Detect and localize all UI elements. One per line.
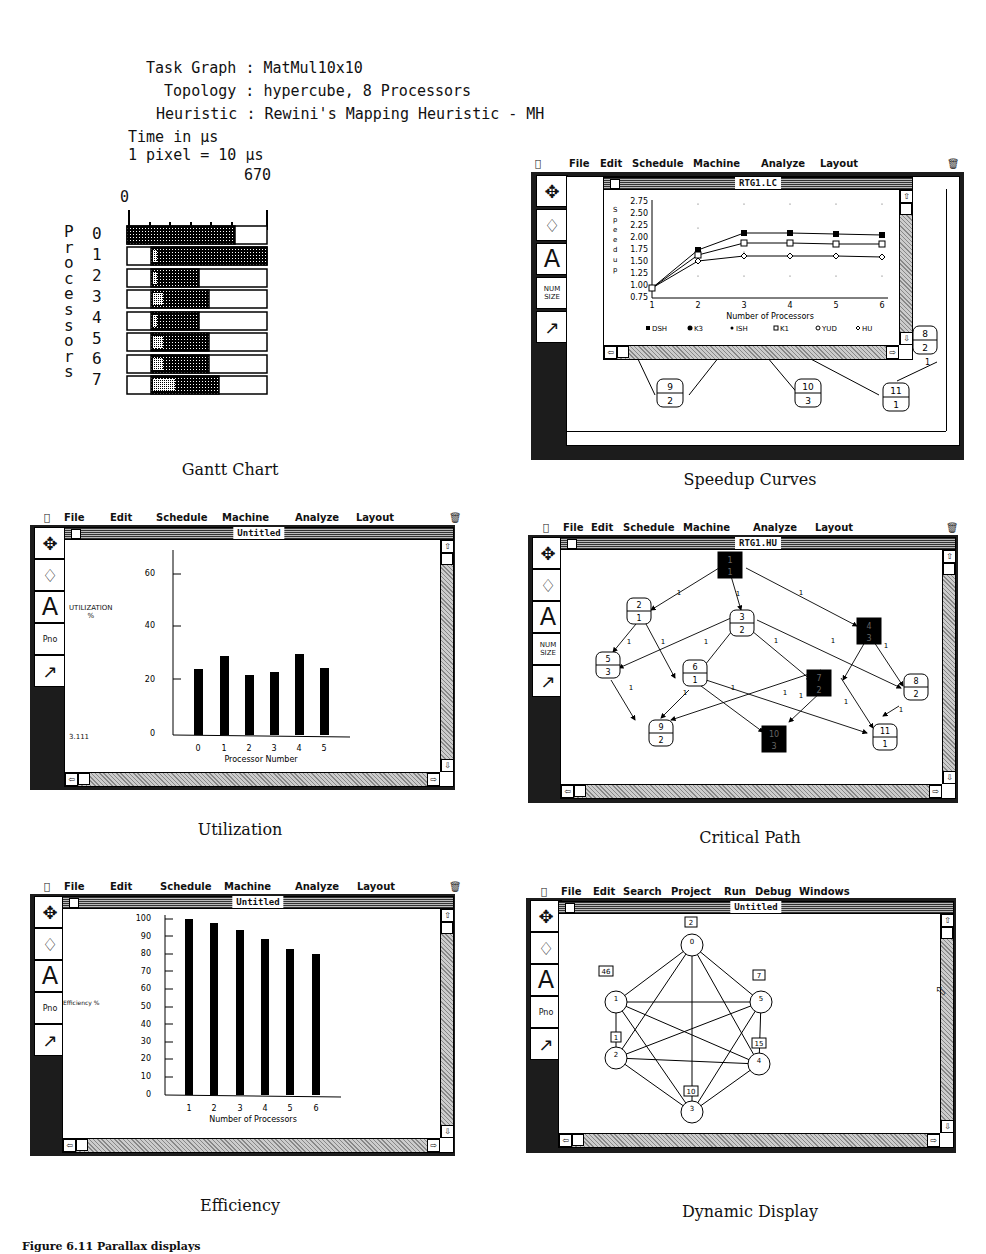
close-box-icon[interactable] [567, 539, 577, 549]
menu-machine[interactable]: Machine [224, 881, 271, 892]
menu-machine[interactable]: Machine [683, 522, 730, 533]
dynamic-titlebar[interactable]: Untitled [559, 902, 953, 914]
menu-analyze[interactable]: Analyze [295, 881, 339, 892]
num-size-tool-icon[interactable]: NUM SIZE [536, 277, 568, 309]
arrow-tool-icon[interactable]: ↗ [34, 655, 66, 687]
vertical-scrollbar[interactable]: ⇧ ⇩ [940, 914, 953, 1133]
hscroll-thumb[interactable] [78, 773, 90, 785]
apple-menu-icon[interactable]:  [535, 158, 541, 169]
menu-edit[interactable]: Edit [600, 158, 622, 169]
utilization-titlebar[interactable]: Untitled [65, 528, 453, 540]
scroll-up-icon[interactable]: ⇧ [941, 914, 954, 927]
scroll-right-icon[interactable]: ⇨ [427, 1139, 440, 1152]
scroll-right-icon[interactable]: ⇨ [427, 773, 440, 786]
menu-layout[interactable]: Layout [357, 881, 395, 892]
scroll-down-icon[interactable]: ⇩ [943, 771, 956, 784]
close-box-icon[interactable] [565, 903, 575, 913]
move-tool-icon[interactable]: ✥ [536, 175, 568, 207]
scroll-up-icon[interactable]: ⇧ [900, 190, 913, 203]
horizontal-scrollbar[interactable]: ⇦ ⇨ [63, 1138, 440, 1152]
apple-menu-icon[interactable]:  [543, 522, 549, 533]
scroll-left-icon[interactable]: ⇦ [604, 346, 617, 359]
menu-analyze[interactable]: Analyze [753, 522, 797, 533]
text-tool-icon[interactable]: A [536, 243, 568, 275]
scroll-right-icon[interactable]: ⇨ [927, 1134, 940, 1147]
menu-edit[interactable]: Edit [593, 886, 615, 897]
vertical-scrollbar[interactable]: ⇧ ⇩ [440, 909, 453, 1138]
scroll-right-icon[interactable]: ⇨ [929, 785, 942, 798]
menu-debug[interactable]: Debug [755, 886, 792, 897]
menu-schedule[interactable]: Schedule [632, 158, 684, 169]
menu-edit[interactable]: Edit [110, 512, 132, 523]
scroll-down-icon[interactable]: ⇩ [900, 332, 913, 345]
scroll-left-icon[interactable]: ⇦ [63, 1139, 76, 1152]
close-box-icon[interactable] [610, 179, 620, 189]
menu-machine[interactable]: Machine [693, 158, 740, 169]
close-box-icon[interactable] [69, 898, 79, 908]
scroll-thumb[interactable] [900, 203, 912, 215]
scroll-up-icon[interactable]: ⇧ [441, 909, 454, 922]
menu-file[interactable]: File [569, 158, 589, 169]
menu-search[interactable]: Search [623, 886, 662, 897]
scroll-thumb[interactable] [943, 563, 955, 575]
horizontal-scrollbar[interactable]: ⇦ ⇨ [561, 784, 942, 798]
scroll-down-icon[interactable]: ⇩ [441, 759, 454, 772]
hscroll-thumb[interactable] [76, 1139, 88, 1151]
move-tool-icon[interactable]: ✥ [34, 527, 66, 559]
horizontal-scrollbar[interactable]: ⇦ ⇨ [559, 1133, 940, 1147]
menu-file[interactable]: File [64, 512, 84, 523]
menu-edit[interactable]: Edit [110, 881, 132, 892]
efficiency-titlebar[interactable]: Untitled [63, 897, 453, 909]
menu-machine[interactable]: Machine [222, 512, 269, 523]
menu-layout[interactable]: Layout [356, 512, 394, 523]
scroll-thumb[interactable] [441, 553, 453, 565]
menu-layout[interactable]: Layout [815, 522, 853, 533]
apple-menu-icon[interactable]:  [44, 512, 50, 523]
horizontal-scrollbar[interactable]: ⇦ ⇨ [604, 345, 899, 359]
scroll-up-icon[interactable]: ⇧ [943, 550, 956, 563]
menu-analyze[interactable]: Analyze [761, 158, 805, 169]
menu-schedule[interactable]: Schedule [623, 522, 675, 533]
vertical-scrollbar[interactable]: ⇧ ⇩ [899, 190, 912, 345]
eraser-tool-icon[interactable]: ♢ [536, 209, 568, 241]
hscroll-thumb[interactable] [574, 785, 586, 797]
scroll-left-icon[interactable]: ⇦ [559, 1134, 572, 1147]
apple-menu-icon[interactable]:  [44, 881, 50, 892]
trash-icon[interactable]: 🗑 [449, 881, 462, 892]
vertical-scrollbar[interactable]: ⇧ ⇩ [942, 550, 955, 784]
scroll-left-icon[interactable]: ⇦ [65, 773, 78, 786]
scroll-right-icon[interactable]: ⇨ [886, 346, 899, 359]
menu-analyze[interactable]: Analyze [295, 512, 339, 523]
menu-project[interactable]: Project [671, 886, 711, 897]
menu-file[interactable]: File [64, 881, 84, 892]
menu-file[interactable]: File [561, 886, 581, 897]
text-tool-icon[interactable]: A [34, 591, 66, 623]
vertical-scrollbar[interactable]: ⇧ ⇩ [440, 540, 453, 772]
critical-path-titlebar[interactable]: RTG1.HU [561, 538, 955, 550]
menu-schedule[interactable]: Schedule [160, 881, 212, 892]
bg-vertical-scrollbar[interactable] [946, 189, 959, 431]
menu-layout[interactable]: Layout [820, 158, 858, 169]
apple-menu-icon[interactable]:  [541, 886, 547, 897]
scroll-thumb[interactable] [941, 927, 953, 939]
arrow-tool-icon[interactable]: ↗ [536, 311, 568, 343]
menu-file[interactable]: File [563, 522, 583, 533]
trash-icon[interactable]: 🗑 [946, 522, 959, 533]
hscroll-thumb[interactable] [572, 1134, 584, 1146]
horizontal-scrollbar[interactable]: ⇦ ⇨ [65, 772, 440, 786]
pno-tool-icon[interactable]: Pno [34, 623, 66, 655]
menu-schedule[interactable]: Schedule [156, 512, 208, 523]
trash-icon[interactable]: 🗑 [449, 512, 462, 523]
hscroll-thumb[interactable] [617, 346, 629, 358]
close-box-icon[interactable] [71, 529, 81, 539]
scroll-down-icon[interactable]: ⇩ [941, 1120, 954, 1133]
scroll-up-icon[interactable]: ⇧ [441, 540, 454, 553]
scroll-left-icon[interactable]: ⇦ [561, 785, 574, 798]
trash-icon[interactable]: 🗑 [947, 158, 960, 169]
eraser-tool-icon[interactable]: ♢ [34, 559, 66, 591]
menu-edit[interactable]: Edit [591, 522, 613, 533]
menu-run[interactable]: Run [724, 886, 746, 897]
speedup-titlebar[interactable]: RTG1.LC [604, 178, 912, 190]
menu-windows[interactable]: Windows [799, 886, 850, 897]
scroll-thumb[interactable] [441, 922, 453, 934]
